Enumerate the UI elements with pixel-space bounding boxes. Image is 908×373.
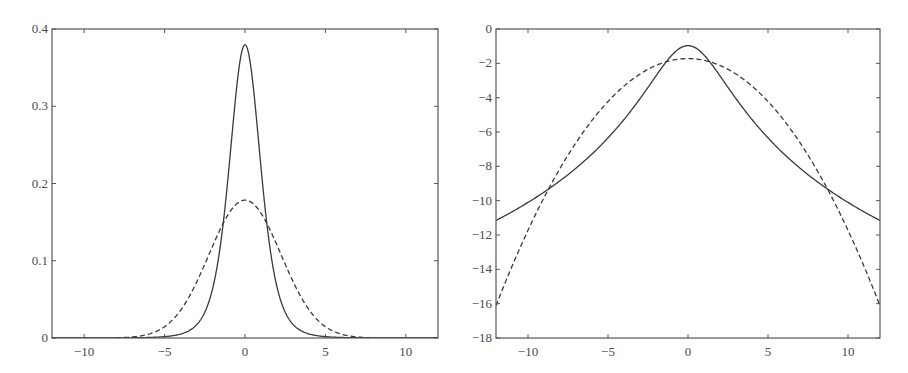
plot-frame <box>52 29 438 338</box>
x-tick-label: −10 <box>518 344 538 359</box>
y-tick-label: −2 <box>478 55 492 70</box>
y-tick-label: −10 <box>472 193 492 208</box>
student-t-curve-solid <box>52 45 438 338</box>
x-tick-label: −10 <box>74 344 94 359</box>
left-plot-density: −10−5051000.10.20.30.4 <box>32 21 438 359</box>
x-tick-label: 5 <box>765 344 772 359</box>
y-tick-label: −6 <box>478 124 492 139</box>
y-tick-label: −18 <box>472 330 492 345</box>
figure-canvas: −10−5051000.10.20.30.4 −10−505100−2−4−6−… <box>0 0 908 373</box>
y-tick-label: 0.4 <box>32 21 49 36</box>
y-tick-label: 0 <box>42 330 49 345</box>
y-tick-label: −16 <box>472 296 493 311</box>
y-tick-label: 0.3 <box>32 98 48 113</box>
student-t-curve-solid <box>496 46 880 221</box>
y-tick-label: −14 <box>472 261 493 276</box>
x-tick-label: 5 <box>322 344 329 359</box>
y-tick-label: 0 <box>486 21 493 36</box>
x-tick-label: −5 <box>158 344 172 359</box>
gaussian-curve-dashed <box>52 200 438 338</box>
x-tick-label: 0 <box>242 344 249 359</box>
x-tick-label: 10 <box>842 344 855 359</box>
y-tick-label: −4 <box>478 90 492 105</box>
right-plot-log-density: −10−505100−2−4−6−8−10−12−14−16−18 <box>472 21 880 359</box>
y-tick-label: −8 <box>478 158 492 173</box>
y-tick-label: −12 <box>472 227 492 242</box>
plot-frame <box>496 29 880 338</box>
gaussian-curve-dashed <box>496 59 880 306</box>
x-tick-label: −5 <box>601 344 615 359</box>
y-tick-label: 0.1 <box>32 253 48 268</box>
y-tick-label: 0.2 <box>32 176 48 191</box>
x-tick-label: 10 <box>399 344 412 359</box>
x-tick-label: 0 <box>685 344 692 359</box>
